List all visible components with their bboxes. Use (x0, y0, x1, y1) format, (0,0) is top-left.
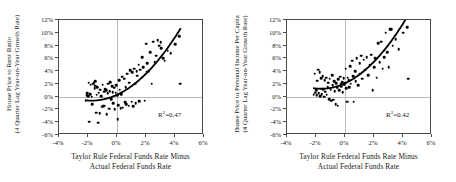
x-axis-tick-label: 6% (199, 139, 208, 146)
x-axis-tick-mark (315, 134, 316, 137)
x-axis-title-line1: Taylor Rule Federal Funds Rate Minus (276, 152, 441, 162)
x-axis-title-right: Taylor Rule Federal Funds Rate Minus Act… (276, 152, 441, 171)
y-axis-tick-label: 12% (269, 16, 281, 23)
r-squared-annotation: R2=0.47 (158, 110, 181, 119)
y-axis-tick-label: 10% (269, 28, 281, 35)
y-axis-tick-mark (283, 108, 286, 109)
trend-curve (59, 20, 203, 134)
x-axis-tick-mark (116, 134, 117, 137)
y-axis-tick-mark (55, 45, 58, 46)
y-axis-tick-label: 6% (44, 54, 53, 61)
x-axis-tick-mark (286, 134, 287, 137)
y-axis-tick-mark (55, 70, 58, 71)
y-axis-tick-label: -2% (270, 105, 281, 112)
x-axis-tick-mark (203, 134, 204, 137)
y-axis-tick-mark (283, 83, 286, 84)
y-axis-tick-label: 8% (272, 41, 281, 48)
y-axis-tick-mark (283, 96, 286, 97)
x-axis-tick-mark (402, 134, 403, 137)
y-axis-tick-label: 8% (44, 41, 53, 48)
x-axis-tick-mark (344, 134, 345, 137)
y-axis-tick-mark (55, 32, 58, 33)
x-axis-tick-label: 4% (170, 139, 179, 146)
y-axis-tick-label: -4% (270, 118, 281, 125)
y-axis-tick-label: -6% (42, 131, 53, 138)
x-axis-title-line1: Taylor Rule Federal Funds Rate Minus (48, 152, 213, 162)
x-axis-tick-mark (174, 134, 175, 137)
x-axis-tick-mark (373, 134, 374, 137)
y-axis-tick-label: 6% (272, 54, 281, 61)
x-axis-tick-mark (431, 134, 432, 137)
y-axis-tick-label: -6% (270, 131, 281, 138)
chart-panel-house-price-to-income: House Price to Personal Income Per Capit… (228, 0, 456, 182)
x-axis-tick-label: 4% (398, 139, 407, 146)
trend-curve (287, 20, 431, 134)
x-axis-tick-label: -2% (310, 139, 321, 146)
r-squared-value: =0.47 (165, 111, 181, 119)
y-axis-tick-label: -2% (42, 105, 53, 112)
y-axis-tick-mark (283, 70, 286, 71)
x-axis-tick-mark (58, 134, 59, 137)
y-axis-tick-mark (283, 121, 286, 122)
x-axis-tick-label: -2% (82, 139, 93, 146)
y-axis-tick-mark (283, 32, 286, 33)
y-axis-tick-label: 2% (272, 79, 281, 86)
y-axis-tick-label: 10% (41, 28, 53, 35)
x-axis-title-line2: Actual Federal Funds Rate (48, 162, 213, 172)
x-axis-tick-label: 2% (141, 139, 150, 146)
x-axis-tick-mark (87, 134, 88, 137)
y-axis-tick-label: -4% (42, 118, 53, 125)
y-axis-tick-mark (55, 121, 58, 122)
y-axis-tick-mark (55, 83, 58, 84)
y-axis-tick-label: 12% (41, 16, 53, 23)
x-axis-tick-label: -4% (53, 139, 64, 146)
x-axis-tick-label: -4% (281, 139, 292, 146)
x-axis-title-left: Taylor Rule Federal Funds Rate Minus Act… (48, 152, 213, 171)
r-squared-value: =0.42 (393, 111, 409, 119)
x-axis-tick-label: 0% (340, 139, 349, 146)
y-axis-tick-mark (283, 19, 286, 20)
y-axis-tick-label: 4% (272, 67, 281, 74)
y-axis-tick-mark (55, 108, 58, 109)
figure-two-scatter-panels: House Price to Rent Ratio (4 Quarter Lag… (0, 0, 456, 182)
y-axis-tick-mark (55, 96, 58, 97)
y-axis-tick-label: 0% (44, 92, 53, 99)
chart-panel-house-price-to-rent: House Price to Rent Ratio (4 Quarter Lag… (0, 0, 228, 182)
y-axis-tick-label: 2% (44, 79, 53, 86)
x-axis-tick-label: 2% (369, 139, 378, 146)
x-axis-tick-label: 0% (112, 139, 121, 146)
y-axis-tick-mark (55, 57, 58, 58)
y-axis-tick-mark (283, 45, 286, 46)
y-axis-tick-label: 4% (44, 67, 53, 74)
x-axis-tick-label: 6% (427, 139, 436, 146)
x-axis-tick-mark (145, 134, 146, 137)
r-squared-annotation: R2=0.42 (386, 110, 409, 119)
y-axis-tick-mark (55, 19, 58, 20)
y-axis-tick-mark (283, 57, 286, 58)
y-axis-tick-label: 0% (272, 92, 281, 99)
x-axis-title-line2: Actual Federal Funds Rate (276, 162, 441, 172)
